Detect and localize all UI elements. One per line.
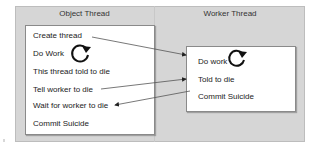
arrow-create-to-dowork [92, 37, 186, 55]
stray-mark [3, 139, 5, 142]
loop-arrow-icon [72, 45, 91, 61]
arrow-commit-to-wait [115, 91, 190, 105]
arrow-tell-to-told [101, 79, 186, 89]
loop-arrow-icon [229, 51, 247, 66]
diagram-connectors [0, 0, 319, 152]
